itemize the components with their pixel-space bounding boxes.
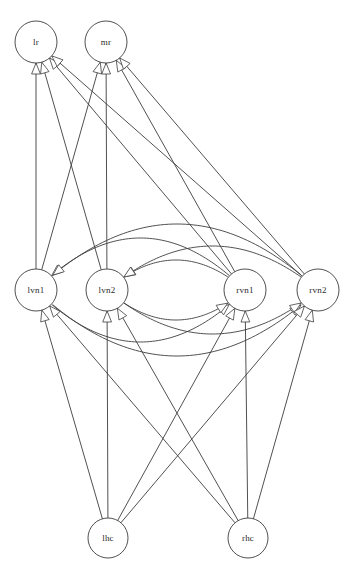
edge-rvn1-to-mr xyxy=(116,60,234,271)
edge-lvn2-to-lr-arrowhead xyxy=(41,62,49,74)
edge-rvn2-to-lvn2 xyxy=(124,246,301,277)
edge-rhc-to-rvn2 xyxy=(253,310,312,519)
nodes-layer: lrmrlvn1lvn2rvn1rvn2lhcrhc xyxy=(15,21,339,558)
node-lvn2-label: lvn2 xyxy=(99,285,116,295)
edge-lhc-to-lvn2 xyxy=(107,311,108,518)
edge-rhc-to-rvn2-arrowhead xyxy=(305,310,313,322)
node-mr[interactable]: mr xyxy=(85,21,127,63)
network-diagram: lrmrlvn1lvn2rvn1rvn2lhcrhc xyxy=(0,0,354,567)
edge-rhc-to-lvn1 xyxy=(50,306,235,523)
edge-rvn2-to-mr xyxy=(120,58,305,274)
node-lvn1[interactable]: lvn1 xyxy=(15,269,57,311)
node-rhc[interactable]: rhc xyxy=(228,518,268,558)
node-rvn2-label: rvn2 xyxy=(309,285,326,295)
edge-lvn2-to-mr-arrowhead xyxy=(102,63,111,74)
edge-rhc-to-rvn1 xyxy=(245,311,248,518)
edge-lhc-to-rvn1-arrowhead xyxy=(226,308,235,320)
edge-lhc-to-lvn2-arrowhead xyxy=(103,311,112,322)
edge-rvn2-to-lvn2-arrowhead xyxy=(124,267,136,277)
node-lvn2[interactable]: lvn2 xyxy=(86,269,128,311)
edge-lhc-to-rvn2 xyxy=(121,306,305,523)
graph-canvas-container: lrmrlvn1lvn2rvn1rvn2lhcrhc xyxy=(0,0,354,567)
node-lr[interactable]: lr xyxy=(15,21,57,63)
edge-lvn1-to-rvn2 xyxy=(53,305,301,356)
node-rvn2[interactable]: rvn2 xyxy=(297,269,339,311)
node-rvn1[interactable]: rvn1 xyxy=(224,269,266,311)
edges-layer xyxy=(36,56,312,523)
node-lvn1-label: lvn1 xyxy=(28,285,45,295)
edge-lvn1-to-lr-arrowhead xyxy=(32,63,41,74)
edge-rhc-to-lvn2-arrowhead xyxy=(117,308,126,320)
edge-lvn1-to-mr-arrowhead xyxy=(93,62,101,74)
edge-rhc-to-rvn1-arrowhead xyxy=(241,311,250,322)
node-lhc[interactable]: lhc xyxy=(88,518,128,558)
node-rvn1-label: rvn1 xyxy=(236,285,253,295)
arrowheads-layer xyxy=(32,56,314,322)
edge-lvn2-to-rvn2 xyxy=(124,303,301,334)
edge-rvn2-to-lr xyxy=(52,56,302,276)
edge-lvn2-to-mr xyxy=(106,63,107,269)
edge-lhc-to-lvn1 xyxy=(42,310,103,519)
edge-rvn1-to-lr xyxy=(50,58,232,274)
node-rhc-label: rhc xyxy=(242,533,254,543)
node-mr-label: mr xyxy=(101,37,111,47)
edge-lhc-to-lvn1-arrowhead xyxy=(41,310,49,322)
node-lr-label: lr xyxy=(33,37,39,47)
node-lhc-label: lhc xyxy=(102,533,114,543)
